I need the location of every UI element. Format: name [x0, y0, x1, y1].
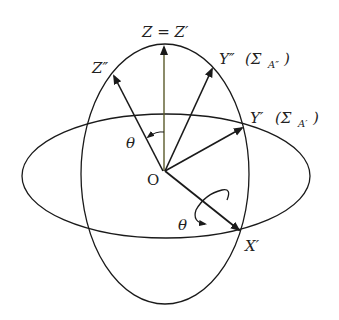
label-y-double-prime-sub: A″: [267, 59, 279, 70]
label-y-double-prime-paren: (Σ: [245, 50, 262, 68]
y-prime-arrow: [165, 128, 242, 171]
label-y-prime: Y′: [250, 109, 264, 127]
label-y-double-prime-close: ): [283, 50, 290, 68]
label-theta-lower: θ: [178, 216, 187, 234]
vertical-ellipse: [81, 44, 249, 304]
label-z-equals-z-prime: Z = Z′: [141, 23, 189, 41]
label-origin: O: [147, 171, 159, 189]
label-z-double-prime: Z″: [91, 59, 108, 77]
label-y-prime-close: ): [312, 109, 319, 127]
rotation-diagram: Z = Z′ Z″ Y″ (Σ A″ ) Y′ (Σ A′ ) θ O θ X′: [0, 0, 339, 320]
theta-arc-upper: [148, 132, 164, 137]
label-y-double-prime: Y″: [219, 50, 235, 68]
label-y-prime-sub: A′: [297, 118, 308, 129]
x-prime-arrow: [165, 171, 239, 230]
z-double-prime-arrow: [114, 76, 163, 171]
label-y-prime-paren: (Σ: [275, 109, 292, 127]
y-double-prime-arrow: [165, 69, 212, 171]
horizontal-ellipse: [22, 114, 310, 238]
label-theta-upper: θ: [126, 134, 135, 152]
label-x-prime: X′: [244, 237, 260, 255]
